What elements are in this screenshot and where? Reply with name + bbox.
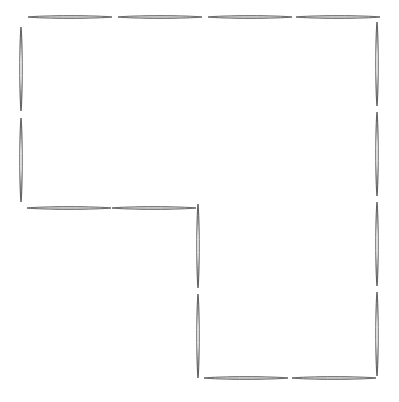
right-column-stick-3[interactable] bbox=[376, 202, 379, 286]
right-column-stick-1[interactable] bbox=[376, 22, 379, 106]
middle-column-stick-2[interactable] bbox=[197, 294, 200, 378]
right-column-stick-4[interactable] bbox=[376, 292, 379, 376]
left-column-stick-2[interactable] bbox=[20, 118, 23, 202]
figure-canvas bbox=[0, 0, 399, 396]
middle-row-stick-2[interactable] bbox=[112, 207, 196, 210]
matchstick-layer bbox=[0, 0, 399, 396]
middle-row-stick-1[interactable] bbox=[27, 207, 111, 210]
top-row-stick-2[interactable] bbox=[118, 16, 202, 19]
top-row-stick-3[interactable] bbox=[208, 16, 292, 19]
middle-column-stick-1[interactable] bbox=[197, 204, 200, 288]
top-row-stick-4[interactable] bbox=[296, 16, 380, 19]
top-row-stick-1[interactable] bbox=[28, 16, 112, 19]
bottom-row-stick-2[interactable] bbox=[292, 377, 376, 380]
matchstick-figure-window bbox=[0, 0, 399, 402]
scrollbar-container[interactable] bbox=[0, 394, 399, 402]
bottom-row-stick-1[interactable] bbox=[204, 377, 288, 380]
right-column-stick-2[interactable] bbox=[376, 112, 379, 196]
left-column-stick-1[interactable] bbox=[20, 27, 23, 111]
